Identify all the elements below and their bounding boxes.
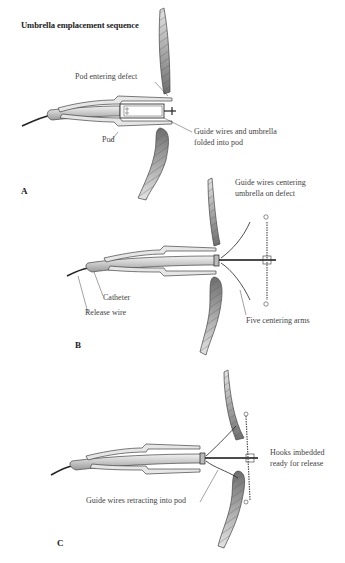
panel-c <box>51 370 258 548</box>
label-five-centering-arms: Five centering arms <box>246 316 310 326</box>
panel-letter-b: B <box>75 340 81 350</box>
label-pod: Pod <box>102 135 114 145</box>
panel-b <box>67 178 276 355</box>
label-guide-wires-folded-2: folded into pod <box>194 138 243 148</box>
label-catheter: Catheter <box>103 293 130 303</box>
label-guide-wires-folded-1: Guide wires and umbrella <box>194 127 277 137</box>
septum-lower-a <box>138 128 168 200</box>
label-guide-wires-retracting: Guide wires retracting into pod <box>86 496 186 506</box>
septum-lower-b <box>200 277 222 355</box>
panel-letter-a: A <box>21 186 28 196</box>
panel-a <box>22 8 192 200</box>
label-pod-entering-defect: Pod entering defect <box>75 72 137 82</box>
emplacement-diagram <box>0 0 345 563</box>
label-guide-wires-centering-2: umbrella on defect <box>235 189 295 199</box>
septum-upper-a <box>159 8 170 94</box>
label-release-wire: Release wire <box>85 308 126 318</box>
septum-upper-b <box>208 178 220 246</box>
septum-upper-c <box>224 370 244 440</box>
label-hooks-imbedded-1: Hooks imbedded <box>270 448 324 458</box>
panel-letter-c: C <box>57 538 64 548</box>
label-hooks-imbedded-2: ready for release <box>270 459 323 469</box>
label-guide-wires-centering-1: Guide wires centering <box>235 178 306 188</box>
septum-lower-c <box>218 471 245 548</box>
